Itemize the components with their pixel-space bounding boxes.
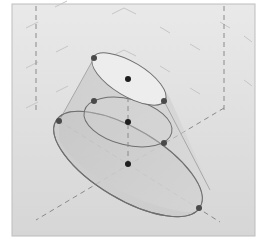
point-middle-center bbox=[125, 119, 131, 125]
point-bottom-center bbox=[125, 161, 131, 167]
point-middle-left bbox=[91, 98, 97, 104]
point-bottom-left bbox=[56, 118, 62, 124]
point-middle-right bbox=[161, 140, 167, 146]
point-top-left bbox=[91, 55, 97, 61]
point-bottom-right bbox=[196, 205, 202, 211]
point-top-center bbox=[125, 76, 131, 82]
frustum-diagram bbox=[0, 0, 263, 240]
point-top-right bbox=[161, 98, 167, 104]
